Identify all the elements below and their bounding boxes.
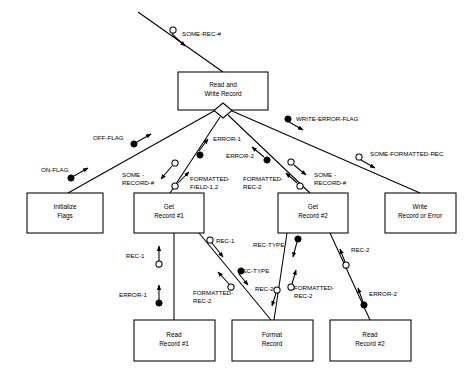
couple-circle-filled xyxy=(68,175,74,181)
couple-label: OFF-FLAG xyxy=(93,134,124,141)
couple-label-line1: FORMATTED- xyxy=(193,289,233,296)
couple-circle-open xyxy=(170,27,176,33)
structure-chart-canvas: SOME-REC-# Read and Write Record OFF-FLA… xyxy=(0,0,476,381)
couple-label: ERROR-1 xyxy=(119,291,147,298)
module-label-line2: Record xyxy=(262,340,283,347)
couple-write-error-flag: WRITE-ERROR-FLAG xyxy=(285,115,359,130)
couple-label-line2: REC-2 xyxy=(193,297,212,304)
couple-circle-filled xyxy=(156,300,162,306)
couple-rec-2-right: REC-2 xyxy=(340,246,370,268)
couple-on-flag: ON-FLAG xyxy=(41,166,88,181)
couple-formatted-field-12: FORMATTED- FIELD-1,2 xyxy=(172,172,230,190)
couple-label: SOME-FORMATTED-REC xyxy=(370,150,444,157)
couple-rec-type-a: REC-TYPE xyxy=(238,267,269,285)
couple-error-1-vertical: ERROR-1 xyxy=(119,285,162,306)
couple-off-flag: OFF-FLAG xyxy=(93,134,151,147)
module-label-line2: Record #1 xyxy=(154,212,184,219)
couple-circle-filled xyxy=(131,141,137,147)
couple-circle-filled xyxy=(264,157,270,163)
module-write-record-or-error: Write Record or Error xyxy=(385,193,456,233)
module-label-line2: Record #2 xyxy=(298,212,328,219)
couple-circle-filled xyxy=(197,152,203,158)
couple-label-line2: FIELD-1,2 xyxy=(190,183,219,190)
module-label-line2: Flags xyxy=(57,212,73,220)
module-read-and-write-record: Read and Write Record xyxy=(178,72,268,118)
couple-circle-open xyxy=(172,183,178,189)
couple-circle-open xyxy=(356,154,362,160)
couple-label-line2: RECORD-# xyxy=(122,179,155,186)
couple-label-line1: SOME - xyxy=(314,171,336,178)
couple-formatted-rec-2-mid: FORMATTED- REC-2 xyxy=(288,270,334,299)
couple-label: REC-TYPE xyxy=(253,241,284,248)
couple-label: REC-2 xyxy=(255,285,274,292)
structure-chart-svg: SOME-REC-# Read and Write Record OFF-FLA… xyxy=(0,0,476,381)
module-label-line1: Write xyxy=(413,203,428,210)
couple-label: REC-1 xyxy=(216,237,235,244)
couple-label: REC-2 xyxy=(351,246,370,253)
module-format-record: Format Record xyxy=(232,320,313,361)
couple-rec-1-vertical: REC-1 xyxy=(126,246,162,267)
couple-circle-open xyxy=(288,159,294,165)
module-label-line2: Record #1 xyxy=(159,340,189,347)
module-initialize-flags: Initialize Flags xyxy=(27,193,103,233)
couple-label-line2: REC-2 xyxy=(243,183,262,190)
couple-label: ERROR-1 xyxy=(213,135,241,142)
couple-label-line1: FORMATTED- xyxy=(243,175,283,182)
couple-circle-filled xyxy=(361,302,367,308)
couple-label: ON-FLAG xyxy=(41,166,69,173)
couple-circle-open xyxy=(274,287,280,293)
module-read-record-2: Read Record #2 xyxy=(330,320,411,361)
couple-label-line1: FORMATTED- xyxy=(294,284,334,291)
couple-circle-open xyxy=(156,261,162,267)
module-label-line1: Read and xyxy=(209,81,237,88)
module-label-line1: Get xyxy=(308,203,319,210)
couple-some-rec-hash: SOME-REC-# xyxy=(170,27,222,46)
module-label-line2: Record #2 xyxy=(355,340,385,347)
couple-label: SOME-REC-# xyxy=(182,30,221,37)
module-get-record-2: Get Record #2 xyxy=(278,193,348,233)
couple-label: ERROR-2 xyxy=(369,290,397,297)
couple-label: REC-1 xyxy=(126,252,145,259)
module-label-line1: Format xyxy=(262,331,282,338)
couple-circle-open xyxy=(172,160,178,166)
module-label-line2: Write Record xyxy=(204,90,242,97)
couple-label: WRITE-ERROR-FLAG xyxy=(296,115,359,122)
couple-label: ERROR-2 xyxy=(226,152,254,159)
module-label-line2: Record or Error xyxy=(398,212,443,219)
couple-circle-open xyxy=(297,183,303,189)
couple-some-formatted-rec: SOME-FORMATTED-REC xyxy=(356,150,444,168)
couple-label-line1: FORMATTED- xyxy=(190,175,230,182)
couple-rec-type-b: REC-TYPE xyxy=(253,236,301,257)
module-label-line1: Initialize xyxy=(53,203,77,210)
couple-some-record-hash-1: SOME - RECORD-# xyxy=(122,160,178,186)
couple-circle-filled xyxy=(295,236,301,242)
module-label-line1: Get xyxy=(164,203,175,210)
couple-circle-open xyxy=(207,237,213,243)
couple-label-line2: RECORD-# xyxy=(314,179,347,186)
module-label-line1: Read xyxy=(166,331,182,338)
module-get-record-1: Get Record #1 xyxy=(134,193,204,233)
couple-label-line2: REC-2 xyxy=(294,292,313,299)
module-label-line1: Read xyxy=(362,331,378,338)
couple-formatted-rec-2-top: FORMATTED- REC-2 xyxy=(243,173,303,190)
couple-error-2-right: ERROR-2 xyxy=(358,288,397,308)
couple-formatted-rec-2-left: FORMATTED- REC-2 xyxy=(193,272,234,304)
couple-some-record-hash-2: SOME - RECORD-# xyxy=(288,159,347,186)
couple-label-line1: SOME - xyxy=(122,171,144,178)
module-read-record-1: Read Record #1 xyxy=(134,320,215,361)
couple-label: REC-TYPE xyxy=(238,267,269,274)
couple-circle-open xyxy=(343,262,349,268)
couple-circle-filled xyxy=(285,116,291,122)
